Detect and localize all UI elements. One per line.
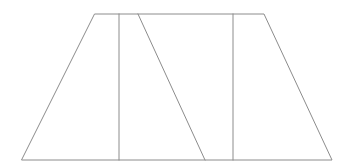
geometry-figure — [0, 0, 348, 167]
figure-canvas — [0, 0, 348, 167]
